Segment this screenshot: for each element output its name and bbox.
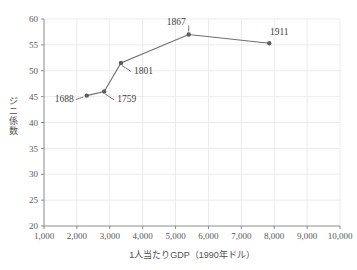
x-tick-label: 3,000 [100,231,121,241]
data-point-label: 1688 [55,94,74,104]
y-tick-label: 40 [29,118,39,128]
y-tick-label: 35 [29,144,39,154]
series-polyline [87,35,270,96]
data-point-label: 1911 [270,27,289,37]
x-tick-label: 8,000 [264,231,285,241]
data-series-markers [85,32,272,97]
y-axis-tick-labels: 202530354045505560 [29,14,39,231]
x-tick-label: 9,000 [297,231,318,241]
y-tick-label: 25 [29,195,39,205]
data-point-label: 1759 [117,94,136,104]
x-axis-tick-labels: 1,0002,0003,0004,0005,0006,0007,0008,000… [34,231,353,241]
x-tick-label: 5,000 [165,231,186,241]
data-point-marker [119,61,123,65]
x-tick-label: 2,000 [67,231,88,241]
data-point-label: 1801 [134,66,153,76]
x-tick-label: 6,000 [198,231,219,241]
x-axis-title: 1人当たりGDP（1990年ドル） [129,249,255,260]
data-label-leader-lines [76,26,270,100]
y-tick-label: 55 [29,40,39,50]
data-series-line [87,35,270,96]
data-point-labels: 16881759180118671911 [55,17,289,105]
tick-marks [41,19,340,229]
chart-container: ジニ係数 1,0002,0003,0004,0005,0006,0007,000… [0,0,357,270]
data-point-label: 1867 [167,17,186,27]
x-tick-label: 1,000 [34,231,55,241]
grid-lines [44,19,340,226]
plot-svg: 1,0002,0003,0004,0005,0006,0007,0008,000… [0,0,357,270]
x-tick-label: 7,000 [231,231,252,241]
data-point-marker [102,89,106,93]
y-tick-label: 45 [29,92,39,102]
data-point-marker [267,41,271,45]
y-tick-label: 50 [29,66,39,76]
y-tick-label: 30 [29,169,39,179]
y-tick-label: 60 [29,14,39,24]
data-point-marker [85,93,89,97]
data-point-marker [187,32,191,36]
y-tick-label: 20 [29,221,39,231]
x-tick-label: 10,000 [328,231,353,241]
x-tick-label: 4,000 [133,231,154,241]
